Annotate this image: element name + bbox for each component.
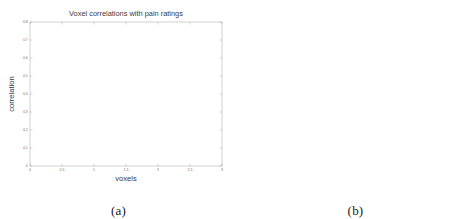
voxel-correlation-chart: Voxel correlations with pain ratings00.5… bbox=[0, 0, 237, 192]
y-tick-label: 0.2 bbox=[23, 128, 28, 132]
y-tick-label: 0.1 bbox=[23, 146, 28, 150]
y-tick-label: 0.8 bbox=[23, 20, 28, 24]
x-axis-label: voxels bbox=[115, 174, 137, 183]
y-tick-label: 0.4 bbox=[23, 92, 28, 96]
panel-b-caption: (b) bbox=[237, 203, 474, 219]
figure-two-panel: Voxel correlations with pain ratings00.5… bbox=[0, 0, 474, 219]
x-tick-label: 3 bbox=[221, 168, 223, 172]
chart-a-container: Voxel correlations with pain ratings00.5… bbox=[0, 0, 237, 192]
chart-title: Voxel correlations with pain ratings bbox=[69, 9, 183, 18]
plot-frame bbox=[30, 22, 222, 166]
x-tick-label: 0 bbox=[29, 168, 31, 172]
panel-a: Voxel correlations with pain ratings00.5… bbox=[0, 0, 237, 219]
x-tick-label: 2.5 bbox=[188, 168, 193, 172]
y-tick-label: 0.7 bbox=[23, 38, 28, 42]
y-axis-label: correlation bbox=[7, 76, 16, 111]
x-tick-label: 0.5 bbox=[60, 168, 65, 172]
panel-a-caption: (a) bbox=[0, 203, 237, 219]
x-tick-label: 1 bbox=[93, 168, 95, 172]
panel-b: (b) bbox=[237, 0, 474, 219]
y-tick-label: 0.3 bbox=[23, 110, 28, 114]
y-tick-label: 0.6 bbox=[23, 56, 28, 60]
x-tick-label: 1.5 bbox=[124, 168, 129, 172]
y-tick-label: 0.5 bbox=[23, 74, 28, 78]
en-solutions-correlation-chart bbox=[237, 0, 474, 192]
y-tick-label: 0 bbox=[26, 164, 28, 168]
chart-b-container bbox=[237, 0, 474, 192]
x-tick-label: 2 bbox=[157, 168, 159, 172]
